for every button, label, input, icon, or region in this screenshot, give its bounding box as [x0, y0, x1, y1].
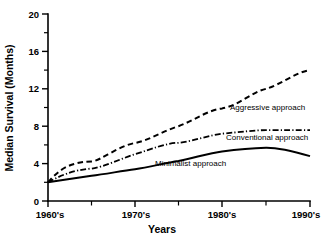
y-tick-label-0: 0	[34, 196, 39, 207]
chart-figure: 0 4 8 12 16 20 Median Survival (Months) …	[0, 0, 324, 239]
y-tick-label-8: 8	[34, 121, 39, 132]
x-tick-label-1970s: 1970's	[122, 209, 151, 220]
x-tick-label-1960s: 1960's	[36, 209, 65, 220]
series-label-conventional-approach: Conventional approach	[226, 133, 308, 142]
y-tick-label-16: 16	[28, 46, 39, 57]
y-tick-label-12: 12	[28, 83, 39, 94]
y-axis-title: Median Survival (Months)	[3, 44, 15, 171]
y-tick-label-4: 4	[34, 158, 40, 169]
series-label-minimalist-approach: Minimalist approach	[155, 159, 226, 168]
x-tick-label-1980s: 1980's	[208, 209, 237, 220]
series-label-aggressive-approach: Aggressive approach	[230, 103, 305, 112]
line-chart: 0 4 8 12 16 20 Median Survival (Months) …	[0, 0, 324, 239]
x-tick-label-1990s: 1990's	[292, 209, 321, 220]
x-axis-title: Years	[148, 223, 176, 235]
y-tick-label-20: 20	[28, 9, 39, 20]
